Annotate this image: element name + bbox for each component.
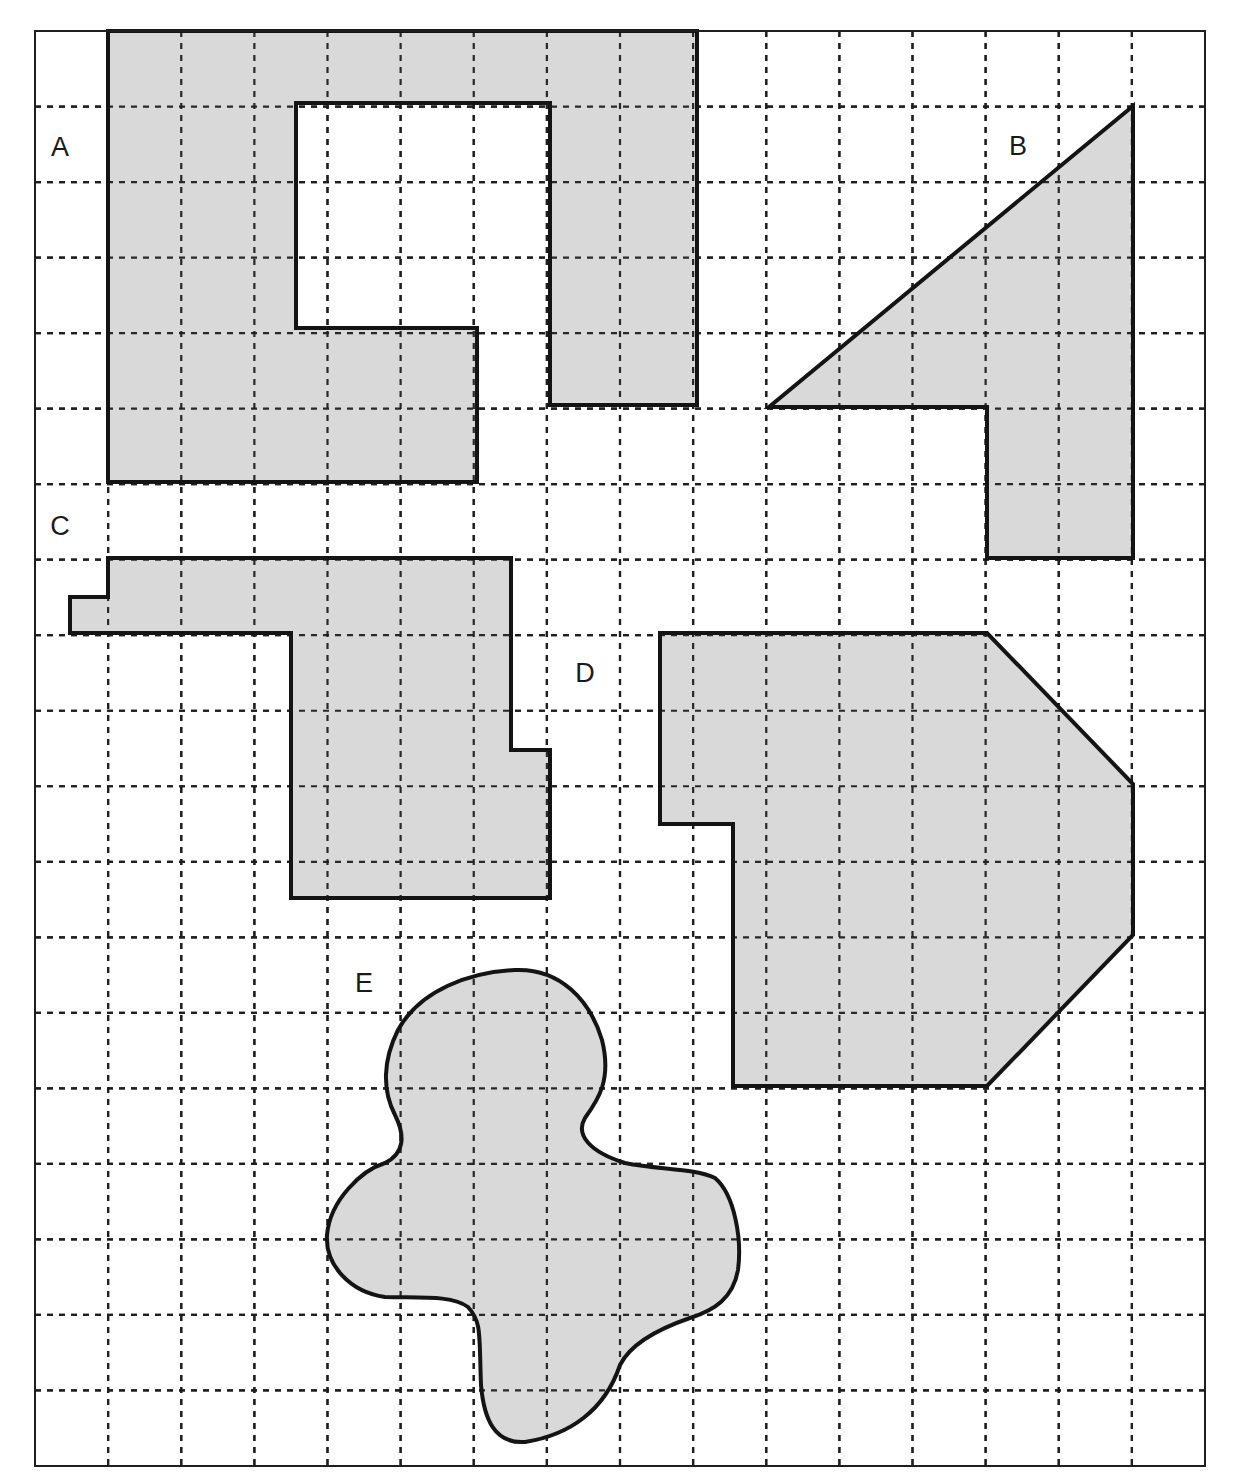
shape-e-fill — [327, 970, 739, 1442]
shapes-layer — [70, 31, 1133, 1442]
shape-c-fill — [70, 558, 550, 898]
shape-label-d: D — [575, 658, 595, 688]
shape-label-b: B — [1009, 131, 1027, 161]
shape-label-e: E — [355, 968, 373, 998]
shape-b-fill — [769, 106, 1133, 558]
shape-label-a: A — [51, 132, 69, 162]
shape-grid-figure: A B C D E — [0, 0, 1233, 1483]
shape-d-fill — [660, 633, 1133, 1086]
shape-label-c: C — [50, 511, 70, 541]
